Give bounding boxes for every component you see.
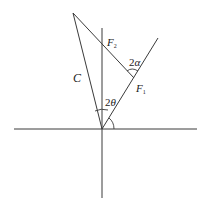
vector-f1 <box>102 38 158 129</box>
label-c: C <box>73 71 82 85</box>
label-2alpha: 2α <box>129 56 141 68</box>
label-f1: F1 <box>135 82 146 95</box>
angle-arc-alpha <box>127 69 138 71</box>
label-2theta: 2θ <box>105 96 117 108</box>
vector-f2-line <box>73 13 134 78</box>
force-diagram: F2 F1 C 2α 2θ <box>0 0 206 211</box>
angle-arc-base <box>109 118 114 129</box>
label-f2: F2 <box>106 36 117 49</box>
